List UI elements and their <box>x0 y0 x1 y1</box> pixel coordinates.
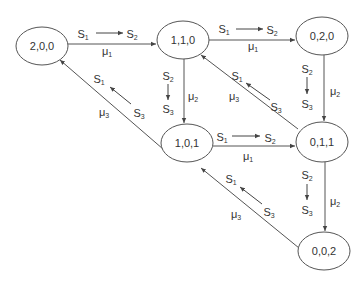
svg-text:μ3: μ3 <box>229 90 239 103</box>
node-0-1-1: 0,1,1 <box>296 122 348 162</box>
svg-text:S2: S2 <box>126 28 137 41</box>
svg-text:S3: S3 <box>263 206 274 219</box>
edge-002-to-101 <box>201 168 299 248</box>
node-2-0-0: 2,0,0 <box>16 27 68 65</box>
svg-text:S3: S3 <box>301 204 312 217</box>
svg-text:S3: S3 <box>270 101 281 114</box>
edge-label-110-101: S2 S3 μ2 <box>162 70 198 116</box>
node-label: 1,0,1 <box>175 137 199 149</box>
svg-text:S3: S3 <box>162 103 173 116</box>
svg-text:S2: S2 <box>162 70 173 83</box>
svg-text:μ3: μ3 <box>231 208 241 221</box>
svg-text:S3: S3 <box>133 107 144 120</box>
svg-text:μ2: μ2 <box>330 85 340 98</box>
svg-text:S1: S1 <box>216 131 227 144</box>
svg-text:μ1: μ1 <box>243 150 253 163</box>
svg-text:μ1: μ1 <box>248 40 258 53</box>
node-1-1-0: 1,1,0 <box>157 21 209 59</box>
svg-text:S1: S1 <box>218 23 229 36</box>
edge-label-011-110: S1 S3 μ3 <box>229 70 282 114</box>
svg-text:S1: S1 <box>93 73 104 86</box>
svg-text:μ2: μ2 <box>188 90 198 103</box>
svg-text:S2: S2 <box>301 63 312 76</box>
svg-text:S3: S3 <box>301 98 312 111</box>
node-label: 1,1,0 <box>171 34 195 46</box>
node-label: 0,2,0 <box>310 30 334 42</box>
edge-label-011-002: S2 S3 μ2 <box>301 169 340 217</box>
svg-text:S1: S1 <box>77 28 88 41</box>
node-0-2-0: 0,2,0 <box>296 17 348 55</box>
svg-text:μ1: μ1 <box>102 45 112 58</box>
edge-label-110-020: S1 S2 μ1 <box>218 23 277 53</box>
edge-101-to-200 <box>60 60 163 149</box>
edge-label-020-011: S2 S3 μ2 <box>301 63 340 111</box>
node-1-0-1: 1,0,1 <box>161 124 213 162</box>
svg-text:S1: S1 <box>231 70 242 83</box>
node-label: 2,0,0 <box>30 40 54 52</box>
svg-text:μ3: μ3 <box>99 106 109 119</box>
transition-arrow <box>240 187 262 204</box>
svg-text:S1: S1 <box>225 173 236 186</box>
state-diagram: 2,0,0 1,1,0 0,2,0 1,0,1 0,1,1 0,0,2 S1 S… <box>0 0 364 286</box>
svg-text:μ2: μ2 <box>330 195 340 208</box>
svg-text:S2: S2 <box>301 169 312 182</box>
edge-label-101-200: S1 S3 μ3 <box>93 73 144 120</box>
transition-arrow <box>110 87 131 104</box>
svg-text:S2: S2 <box>264 132 275 145</box>
edge-label-002-101: S1 S3 μ3 <box>225 173 274 221</box>
node-label: 0,0,2 <box>312 245 336 257</box>
edge-label-200-110: S1 S2 μ1 <box>77 28 137 58</box>
node-0-0-2: 0,0,2 <box>298 232 350 270</box>
svg-text:S2: S2 <box>266 24 277 37</box>
node-label: 0,1,1 <box>310 136 334 148</box>
edge-011-to-110 <box>201 55 298 129</box>
edge-label-101-011: S1 S2 μ1 <box>216 131 275 163</box>
